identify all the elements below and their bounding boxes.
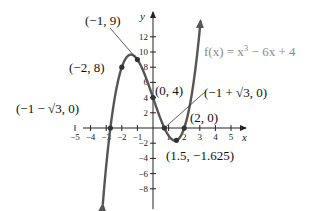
y-tick-label: 10 (139, 47, 149, 57)
function-graph: −5−4−3−2−112345 −8−6−4−224681012 x y f(x… (0, 0, 335, 211)
x-axis-label: x (241, 131, 247, 143)
x-tick-label: −2 (117, 132, 127, 142)
leader-line-neg1-9 (110, 28, 137, 60)
y-tick-label: 4 (144, 93, 149, 103)
point-marker (162, 125, 167, 130)
point-label-neg2-8: (−2, 8) (69, 60, 105, 75)
point-label-local-min: (1.5, −1.625) (166, 148, 234, 163)
x-tick-label: −4 (86, 132, 96, 142)
point-label-neg1-9: (−1, 9) (85, 13, 121, 28)
point-marker (182, 125, 187, 130)
x-tick-label: −5 (70, 132, 80, 142)
y-tick-label: −4 (138, 153, 148, 163)
x-tick-label: 5 (229, 132, 234, 142)
point-label-0-4: (0, 4) (155, 83, 183, 98)
y-tick-label: −8 (138, 184, 148, 194)
axes: −5−4−3−2−112345 −8−6−4−224681012 x y (70, 10, 247, 209)
y-axis-label: y (139, 10, 145, 22)
point-label-2-0: (2, 0) (190, 110, 218, 125)
point-marker (135, 57, 140, 62)
x-tick-label: 3 (198, 132, 203, 142)
function-equation: f(x) = x3 − 6x + 4 (204, 43, 296, 59)
point-marker (174, 138, 179, 143)
x-tick-label: 4 (213, 132, 218, 142)
point-label-left-root: (−1 − √3, 0) (16, 101, 79, 116)
point-label-right-root: (−1 + √3, 0) (204, 85, 267, 100)
point-marker (108, 125, 113, 130)
y-tick-label: −6 (138, 169, 148, 179)
point-marker (119, 65, 124, 70)
y-tick-label: 2 (144, 108, 149, 118)
y-tick-label: −2 (138, 138, 148, 148)
y-tick-label: 12 (139, 32, 148, 42)
